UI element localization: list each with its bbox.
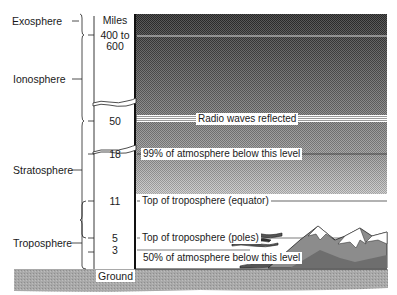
layer-label-exosphere: Exosphere (12, 15, 62, 27)
altitude-label-fifty: 3 (95, 245, 135, 256)
level-label-trop-poles: Top of troposphere (poles) (140, 232, 261, 244)
layer-label-stratosphere: Stratosphere (13, 164, 73, 176)
altitude-label-radio: 50 (95, 116, 135, 127)
level-label-trop-equator: Top of troposphere (equator) (140, 195, 271, 207)
layer-label-troposphere: Troposphere (13, 237, 72, 249)
sky-dither (135, 14, 387, 194)
altitude-label-trop-equator: 11 (95, 196, 135, 207)
level-label-radio: Radio waves reflected (196, 113, 298, 125)
level-label-ninety-nine: 99% of atmosphere below this level (141, 148, 302, 160)
ground-label: Ground (96, 270, 135, 282)
scale-unit-label: Miles (95, 15, 135, 26)
scale-ticks (88, 35, 94, 252)
altitude-label-trop-poles: 5 (95, 233, 135, 244)
layer-brackets (72, 14, 86, 269)
altitude-label-exosphere-base: 400 to 600 (95, 30, 135, 52)
ground-band (14, 269, 388, 292)
altitude-label-ninety-nine: 18 (95, 149, 135, 160)
layer-label-ionosphere: Ionosphere (13, 73, 66, 85)
level-label-fifty: 50% of atmosphere below this level (141, 252, 302, 264)
